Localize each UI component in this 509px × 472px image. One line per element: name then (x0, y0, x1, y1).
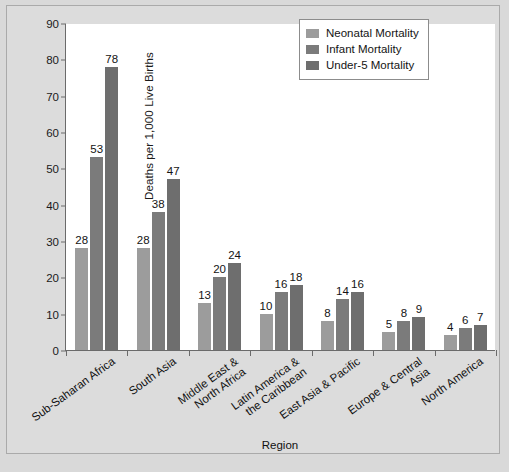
bar-value-label: 16 (351, 278, 364, 290)
bar: 38 (152, 212, 165, 350)
plot-area: Deaths per 1,000 Live Births 28537828384… (65, 24, 495, 351)
bar: 78 (105, 67, 118, 350)
bar-value-label: 18 (290, 271, 303, 283)
bar: 13 (198, 303, 211, 350)
bar-value-label: 53 (90, 143, 103, 155)
x-axis-tick-mark (496, 350, 497, 356)
x-axis-title: Region (65, 439, 495, 451)
bar: 47 (167, 179, 180, 350)
bar-value-label: 47 (167, 165, 180, 177)
y-axis-tick-mark (61, 96, 66, 97)
y-axis-tick-mark (61, 314, 66, 315)
y-axis-tick-mark (61, 205, 66, 206)
plot-inner: 28537828384713202410161881416589467 (66, 24, 495, 350)
bar-value-label: 7 (477, 311, 483, 323)
bar-value-label: 20 (213, 263, 226, 275)
bar: 10 (260, 314, 273, 350)
bar-value-label: 28 (75, 234, 88, 246)
bar-value-label: 24 (228, 249, 241, 261)
bar: 7 (474, 325, 487, 350)
bar-value-label: 9 (416, 303, 422, 315)
bar: 16 (351, 292, 364, 350)
bar-value-label: 8 (401, 307, 407, 319)
y-axis-tick-mark (61, 169, 66, 170)
bar-value-label: 38 (152, 198, 165, 210)
legend-swatch-icon (306, 45, 319, 54)
bar: 9 (412, 317, 425, 350)
bar-value-label: 14 (336, 285, 349, 297)
y-axis-tick-mark (61, 60, 66, 61)
bar: 20 (213, 277, 226, 350)
chart-outer-frame: Deaths per 1,000 Live Births 28537828384… (6, 5, 500, 454)
chart-legend: Neonatal MortalityInfant MortalityUnder-… (299, 19, 429, 80)
y-axis-tick-mark (61, 278, 66, 279)
bar: 18 (290, 285, 303, 350)
bar: 8 (321, 321, 334, 350)
bar: 5 (382, 332, 395, 350)
legend-item[interactable]: Infant Mortality (306, 41, 419, 57)
bar: 28 (137, 248, 150, 350)
bar-value-label: 4 (447, 321, 453, 333)
legend-item-label: Neonatal Mortality (326, 27, 419, 39)
bar: 14 (336, 299, 349, 350)
legend-item-label: Under-5 Mortality (326, 59, 414, 71)
legend-swatch-icon (306, 61, 319, 70)
bar: 8 (397, 321, 410, 350)
bar-value-label: 6 (462, 314, 468, 326)
x-axis-category-labels: Sub-Saharan AfricaSouth AsiaMiddle East … (65, 351, 495, 441)
y-axis-tick-mark (61, 242, 66, 243)
bar: 24 (228, 263, 241, 350)
bar-value-label: 10 (260, 300, 273, 312)
bar: 28 (75, 248, 88, 350)
bar-value-label: 13 (198, 289, 211, 301)
bar: 4 (444, 335, 457, 350)
bar-value-label: 28 (137, 234, 150, 246)
chart-figure: Deaths per 1,000 Live Births 28537828384… (0, 0, 509, 472)
legend-item-label: Infant Mortality (326, 43, 401, 55)
bar-value-label: 5 (386, 318, 392, 330)
bar: 6 (459, 328, 472, 350)
y-axis-tick-mark (61, 133, 66, 134)
bar-value-label: 8 (324, 307, 330, 319)
legend-swatch-icon (306, 29, 319, 38)
bar: 16 (275, 292, 288, 350)
bar-value-label: 78 (105, 53, 118, 65)
bar-value-label: 16 (275, 278, 288, 290)
legend-item[interactable]: Neonatal Mortality (306, 25, 419, 41)
bar: 53 (90, 157, 103, 350)
legend-item[interactable]: Under-5 Mortality (306, 57, 419, 73)
y-axis-tick-mark (61, 24, 66, 25)
